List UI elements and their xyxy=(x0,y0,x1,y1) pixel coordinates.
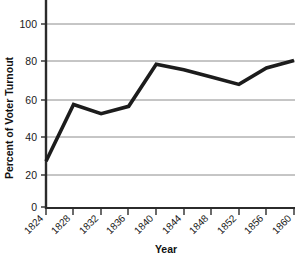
y-tick-label-40: 40 xyxy=(25,131,37,143)
chart-canvas: 100 80 60 40 20 0 1824 1828 1832 1836 18… xyxy=(0,0,302,259)
y-tick-label-60: 60 xyxy=(25,94,37,106)
voter-turnout-line-chart: 100 80 60 40 20 0 1824 1828 1832 1836 18… xyxy=(0,0,302,259)
y-tick-label-0: 0 xyxy=(31,201,37,213)
y-axis-title: Percent of Voter Turnout xyxy=(3,56,15,179)
y-tick-label-100: 100 xyxy=(19,18,37,30)
y-tick-label-80: 80 xyxy=(25,55,37,67)
x-axis-title: Year xyxy=(155,243,177,255)
y-tick-label-20: 20 xyxy=(25,169,37,181)
